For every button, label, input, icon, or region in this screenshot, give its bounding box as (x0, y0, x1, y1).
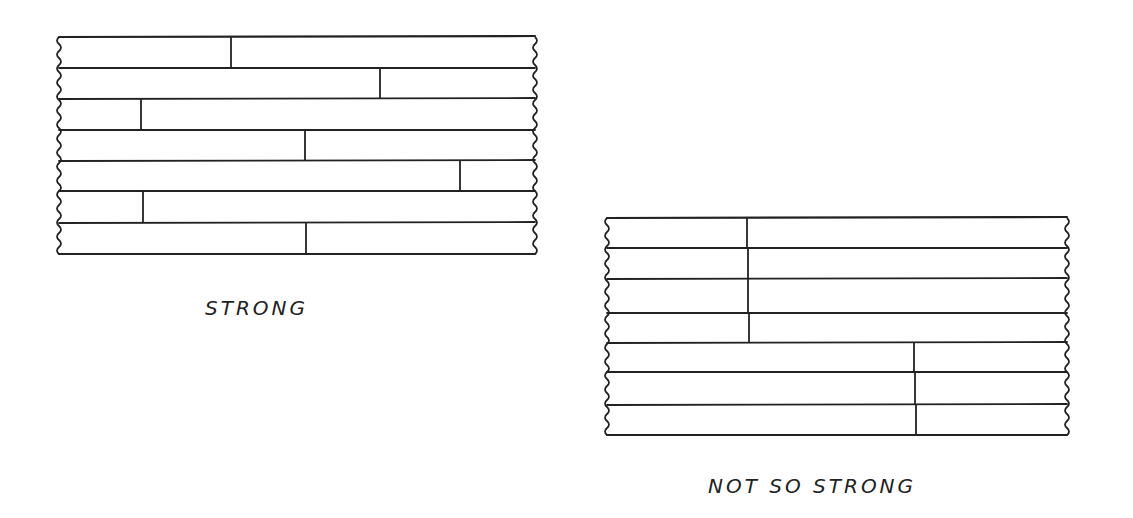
board-edge-line (59, 98, 535, 99)
board-edge-line (607, 278, 1067, 279)
broken-right-end (1065, 218, 1069, 435)
board-edge-line (59, 36, 535, 37)
board-edge-line (59, 160, 535, 161)
board-edge-line (59, 222, 535, 223)
caption-not-so-strong: NOT SO STRONG (708, 474, 916, 498)
board-edge-line (607, 404, 1067, 405)
lumber-splice-comparison-drawing (0, 0, 1133, 518)
not-so-strong-aligned-joints-diagram (605, 217, 1069, 435)
caption-strong: STRONG (205, 296, 308, 320)
board-edge-line (607, 342, 1067, 343)
broken-left-end (57, 37, 61, 254)
broken-left-end (605, 218, 609, 435)
strong-staggered-joints-diagram (57, 36, 537, 254)
board-edge-line (607, 217, 1067, 218)
